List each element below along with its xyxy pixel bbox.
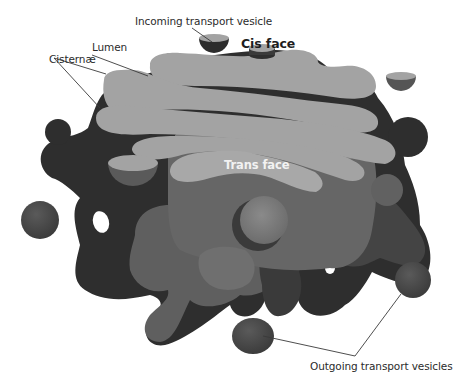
leader-outgoing-2 <box>355 294 401 356</box>
label-lumen: Lumen <box>92 42 127 53</box>
free-vesicle-left <box>21 201 59 239</box>
incoming-vesicle <box>199 34 229 53</box>
vesicle-right-body <box>371 174 403 206</box>
label-trans-face: Trans face <box>224 160 289 172</box>
half-vesicle-right <box>386 72 416 91</box>
label-cisternae: Cisternæ <box>49 54 96 65</box>
label-incoming-transport-vesicle: Incoming transport vesicle <box>135 16 272 27</box>
outgoing-vesicle-right <box>395 262 431 298</box>
label-outgoing-transport-vesicles: Outgoing transport vesicles <box>310 361 453 372</box>
outgoing-vesicle-bottom <box>232 318 274 354</box>
leader-outgoing-1 <box>263 336 355 356</box>
label-cis-face: Cis face <box>241 38 295 51</box>
